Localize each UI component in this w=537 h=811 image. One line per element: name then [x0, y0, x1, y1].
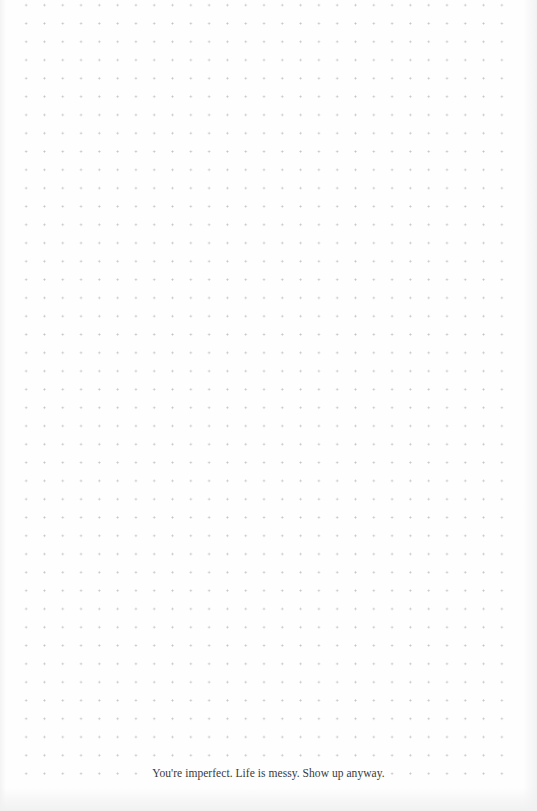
page-edge-shadow-left [0, 0, 6, 811]
page-edge-shadow-bottom [0, 787, 537, 811]
journal-page: You're imperfect. Life is messy. Show up… [0, 0, 537, 811]
dot-grid-pattern [17, 0, 511, 782]
motivational-quote: You're imperfect. Life is messy. Show up… [149, 765, 387, 781]
footer-quote-row: You're imperfect. Life is messy. Show up… [0, 764, 537, 782]
page-edge-shadow-right [523, 0, 537, 811]
